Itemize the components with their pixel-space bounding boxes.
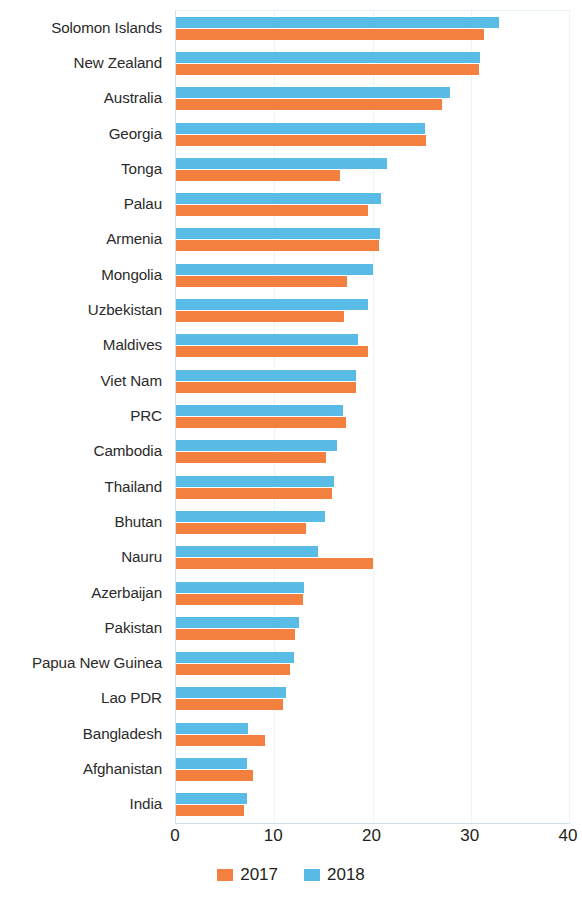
category-label: Papua New Guinea	[32, 655, 162, 670]
horizontal-bar-chart: Solomon IslandsNew ZealandAustraliaGeorg…	[0, 0, 582, 902]
category-label: India	[130, 796, 162, 811]
bar-group	[176, 51, 569, 77]
category-label: Armenia	[106, 231, 162, 246]
legend-label: 2018	[327, 866, 365, 883]
x-tick-label: 10	[264, 826, 283, 846]
category-label: Tonga	[121, 161, 162, 176]
bar-group	[176, 686, 569, 712]
bar-group	[176, 333, 569, 359]
bar-2017	[176, 240, 379, 251]
bar-2017	[176, 735, 265, 746]
category-label: Bangladesh	[83, 726, 162, 741]
category-label: Azerbaijan	[91, 585, 162, 600]
category-label: Bhutan	[114, 514, 162, 529]
bar-group	[176, 581, 569, 607]
bar-2018	[176, 299, 368, 310]
category-label: PRC	[130, 408, 162, 423]
bar-group	[176, 439, 569, 465]
bar-2018	[176, 158, 387, 169]
bar-2017	[176, 276, 347, 287]
bar-2018	[176, 405, 343, 416]
bar-2017	[176, 29, 484, 40]
bar-2018	[176, 440, 337, 451]
category-label: Georgia	[109, 126, 162, 141]
x-axis-tick-labels: 010203040	[175, 826, 568, 856]
category-label: Nauru	[121, 549, 162, 564]
bar-2018	[176, 758, 247, 769]
category-label: Thailand	[105, 479, 162, 494]
plot-area	[175, 10, 570, 824]
category-label: Maldives	[103, 337, 162, 352]
bar-2017	[176, 558, 373, 569]
bar-group	[176, 616, 569, 642]
bar-2018	[176, 17, 499, 28]
chart-legend: 20172018	[0, 866, 582, 883]
x-tick-label: 20	[362, 826, 381, 846]
bar-group	[176, 651, 569, 677]
bar-2018	[176, 617, 299, 628]
category-label: Mongolia	[101, 267, 162, 282]
bar-2018	[176, 582, 304, 593]
bar-2017	[176, 346, 368, 357]
bar-2017	[176, 170, 340, 181]
bar-2017	[176, 770, 253, 781]
legend-label: 2017	[240, 866, 278, 883]
bar-2018	[176, 264, 373, 275]
bar-group	[176, 122, 569, 148]
bar-2018	[176, 511, 325, 522]
x-tick-label: 30	[460, 826, 479, 846]
category-axis-labels: Solomon IslandsNew ZealandAustraliaGeorg…	[0, 0, 170, 832]
bar-group	[176, 757, 569, 783]
x-tick-label: 40	[559, 826, 578, 846]
bar-group	[176, 404, 569, 430]
bar-2018	[176, 793, 247, 804]
bar-2017	[176, 382, 356, 393]
bar-2017	[176, 488, 332, 499]
category-label: Uzbekistan	[88, 302, 162, 317]
bar-2017	[176, 699, 283, 710]
gridline	[569, 11, 570, 823]
bar-group	[176, 298, 569, 324]
bar-2017	[176, 594, 303, 605]
category-label: Palau	[124, 196, 162, 211]
bar-group	[176, 157, 569, 183]
bar-group	[176, 16, 569, 42]
category-label: Lao PDR	[101, 690, 162, 705]
bar-group	[176, 722, 569, 748]
x-tick-label: 0	[170, 826, 179, 846]
bar-2017	[176, 805, 244, 816]
bar-2017	[176, 135, 426, 146]
bar-2018	[176, 193, 381, 204]
bar-2017	[176, 523, 306, 534]
bar-group	[176, 227, 569, 253]
category-label: New Zealand	[74, 55, 162, 70]
bar-group	[176, 792, 569, 818]
legend-item[interactable]: 2018	[304, 866, 365, 883]
plot-wrapper: Solomon IslandsNew ZealandAustraliaGeorg…	[0, 0, 582, 832]
category-label: Viet Nam	[101, 373, 162, 388]
bar-2017	[176, 417, 346, 428]
bar-2017	[176, 452, 326, 463]
bar-2017	[176, 205, 368, 216]
bar-2017	[176, 311, 344, 322]
bar-group	[176, 475, 569, 501]
bar-group	[176, 86, 569, 112]
bar-2018	[176, 52, 480, 63]
bar-2018	[176, 334, 358, 345]
bar-2018	[176, 370, 356, 381]
bar-2018	[176, 652, 294, 663]
bar-2017	[176, 664, 290, 675]
bar-2018	[176, 123, 425, 134]
bar-2017	[176, 629, 295, 640]
bar-2018	[176, 687, 286, 698]
bar-group	[176, 510, 569, 536]
category-label: Pakistan	[105, 620, 162, 635]
category-label: Afghanistan	[83, 761, 162, 776]
bar-2018	[176, 228, 380, 239]
legend-item[interactable]: 2017	[217, 866, 278, 883]
legend-swatch-2017-icon	[217, 869, 233, 881]
bar-group	[176, 369, 569, 395]
legend-swatch-2018-icon	[304, 869, 320, 881]
bar-group	[176, 545, 569, 571]
bar-group	[176, 192, 569, 218]
